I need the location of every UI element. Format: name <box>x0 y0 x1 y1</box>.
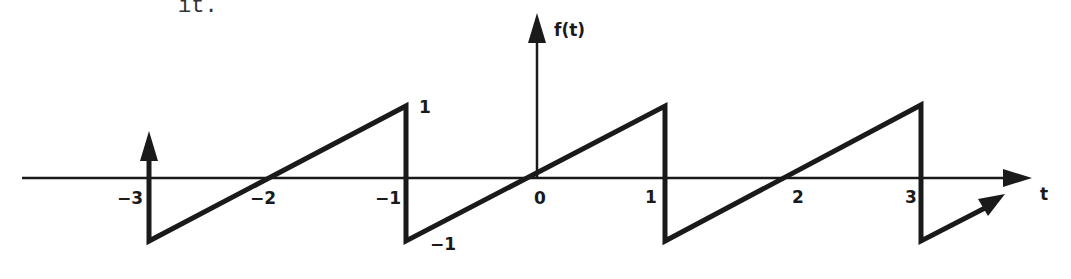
header-fragment: it. <box>178 0 218 19</box>
left-arrow-icon <box>140 131 158 161</box>
f-axis-arrow-icon <box>528 13 546 43</box>
right-arrow-icon <box>978 194 1005 216</box>
amplitude-positive-label: 1 <box>419 97 431 117</box>
tick-0: 0 <box>534 188 546 208</box>
tick-1: 1 <box>645 187 657 207</box>
tick-m1: −1 <box>375 188 401 208</box>
t-axis-arrow-icon <box>1003 169 1032 187</box>
tick-m2: −2 <box>250 188 276 208</box>
sawtooth-waveform <box>149 105 985 241</box>
t-axis-label: t <box>1040 184 1048 204</box>
tick-2: 2 <box>792 187 804 207</box>
amplitude-negative-label: −1 <box>430 234 456 254</box>
tick-m3: −3 <box>117 188 143 208</box>
sawtooth-chart: it. f(t) t −3 −2 −1 0 1 2 3 1 −1 <box>0 0 1071 279</box>
tick-3: 3 <box>905 187 917 207</box>
f-axis-label: f(t) <box>554 20 585 40</box>
